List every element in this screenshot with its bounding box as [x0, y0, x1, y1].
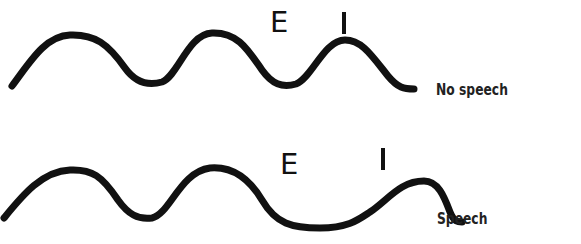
no-speech-e-marker: E — [270, 8, 288, 37]
speech-e-marker: E — [280, 150, 298, 179]
speech-label: Speech — [437, 210, 487, 228]
no-speech-label: No speech — [436, 81, 508, 99]
waveform-diagram — [0, 0, 581, 244]
speech-waveform — [4, 168, 462, 228]
no-speech-waveform — [12, 33, 414, 89]
